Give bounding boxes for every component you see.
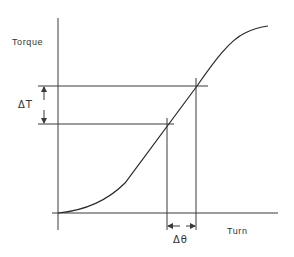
delta-torque-label: ΔT xyxy=(18,99,33,110)
torque-turn-diagram: Torque Turn ΔT Δθ xyxy=(0,0,294,257)
x-axis-label: Turn xyxy=(227,226,248,236)
torque-curve xyxy=(58,26,268,213)
y-axis-label: Torque xyxy=(12,37,43,47)
delta-angle-label: Δθ xyxy=(173,234,188,245)
